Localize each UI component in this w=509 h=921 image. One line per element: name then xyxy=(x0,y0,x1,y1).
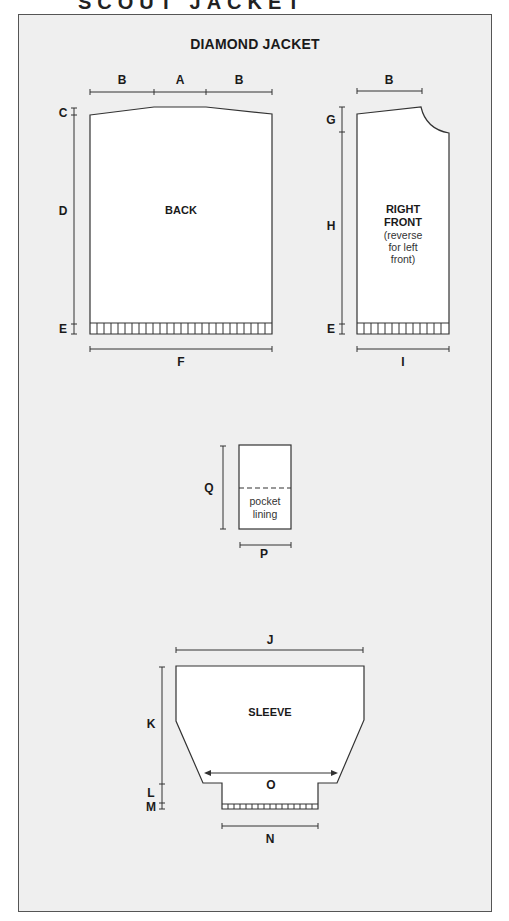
dim-label-b-left: B xyxy=(118,73,127,87)
sleeve-piece: J SLEEVE O K L M N xyxy=(146,633,364,846)
pocket-note-line2: lining xyxy=(253,508,278,520)
right-front-note-line3: front) xyxy=(391,253,416,265)
dim-label-e-back: E xyxy=(59,322,67,336)
dim-label-f: F xyxy=(177,355,184,369)
dim-label-c: C xyxy=(59,106,68,120)
dim-label-a: A xyxy=(176,73,185,87)
dim-label-i: I xyxy=(401,355,404,369)
pocket-lining-piece: pocket lining Q P xyxy=(204,445,291,561)
dim-label-p: P xyxy=(260,547,268,561)
dim-label-k: K xyxy=(147,717,156,731)
dim-label-q: Q xyxy=(204,481,213,495)
dim-label-l: L xyxy=(147,786,154,800)
dim-label-e-front: E xyxy=(327,322,335,336)
dim-label-n: N xyxy=(266,832,275,846)
sleeve-label: SLEEVE xyxy=(248,706,291,718)
right-front-label-line2: FRONT xyxy=(384,216,422,228)
dim-label-o: O xyxy=(266,778,275,792)
dim-label-g: G xyxy=(326,113,335,127)
right-front-piece: B RIGHT FRONT (reverse for left front) G… xyxy=(326,73,449,369)
pattern-schematic: B A B BACK C D E F B xyxy=(0,0,509,921)
dim-label-b-right: B xyxy=(235,73,244,87)
dim-label-h: H xyxy=(327,219,336,233)
right-front-note-line1: (reverse xyxy=(384,229,423,241)
pocket-note-line1: pocket xyxy=(250,495,281,507)
dim-label-m: M xyxy=(146,800,156,814)
right-front-label-line1: RIGHT xyxy=(386,203,421,215)
dim-label-j: J xyxy=(267,633,274,647)
dim-label-b-front: B xyxy=(385,73,394,87)
back-piece: B A B BACK C D E F xyxy=(59,73,272,369)
dim-label-d: D xyxy=(59,204,68,218)
back-label: BACK xyxy=(165,204,197,216)
right-front-note-line2: for left xyxy=(388,241,417,253)
